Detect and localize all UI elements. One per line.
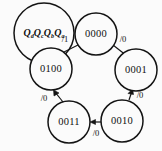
state-transition-diagram: QdQcQbQa /1 /0 /0 /0 [0, 0, 162, 151]
state-diagram-container: QdQcQbQa /1 /0 /0 /0 [0, 0, 162, 151]
state-label: 0100 [40, 63, 62, 74]
state-node-0011[interactable]: 0011 [48, 101, 90, 143]
state-node-0001[interactable]: 0001 [115, 49, 157, 91]
state-node-0100[interactable]: 0100 [30, 48, 72, 90]
transition-label: /0 [120, 34, 127, 44]
state-label: 0000 [85, 28, 107, 39]
transition-0010-to-0011[interactable]: /0 [90, 120, 102, 138]
state-label: 0010 [111, 115, 133, 126]
legend-label: QdQcQbQa [24, 27, 65, 39]
transition-label: /1 [62, 34, 69, 44]
arrowhead-icon [90, 120, 96, 125]
state-node-0010[interactable]: 0010 [101, 100, 143, 142]
transition-0011-to-0100[interactable]: /0 [41, 90, 63, 103]
transition-label: /0 [93, 128, 100, 138]
transition-label: /0 [41, 93, 48, 103]
state-node-0000[interactable]: 0000 [75, 13, 117, 55]
state-label: 0001 [125, 64, 147, 75]
state-label: 0011 [58, 116, 79, 127]
